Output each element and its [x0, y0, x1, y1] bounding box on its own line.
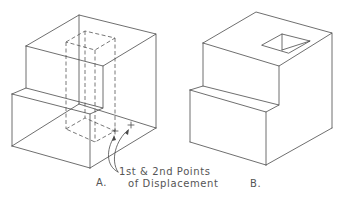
view-b-step-face: [190, 86, 279, 112]
hidden-prism-bottom: [66, 118, 115, 142]
view-a-bottom-back-right-edge: [79, 104, 156, 128]
view-b-block: [190, 12, 332, 165]
hidden-prism-top: [66, 31, 115, 50]
view-b-top-face: [203, 12, 332, 66]
drawing-canvas: A. 1st & 2nd Points of Displacement B.: [0, 0, 340, 200]
displacement-markers: [108, 122, 134, 172]
leader-line-1: [108, 137, 118, 172]
view-a-bottom-right-edge: [90, 128, 156, 168]
view-a-step-face: [12, 88, 103, 114]
view-a-hidden-prism: [66, 31, 115, 142]
view-b-bottom-front-edge: [190, 142, 266, 165]
arrowhead-icon: [112, 135, 116, 141]
first-point-cross-icon: [112, 128, 118, 134]
view-a-bottom-front-edge: [12, 146, 90, 168]
view-b-bottom-right-edge: [266, 128, 332, 165]
callout-line-1: 1st & 2nd Points: [119, 166, 211, 177]
second-point-cross-icon: [128, 122, 134, 128]
view-b-label: B.: [250, 178, 261, 189]
callout-line-2: of Displacement: [128, 178, 219, 189]
view-a-label: A.: [96, 177, 107, 188]
view-a-top-face: [26, 15, 156, 66]
view-a-block: [12, 15, 156, 168]
view-a-bottom-back-left-edge: [12, 104, 79, 146]
